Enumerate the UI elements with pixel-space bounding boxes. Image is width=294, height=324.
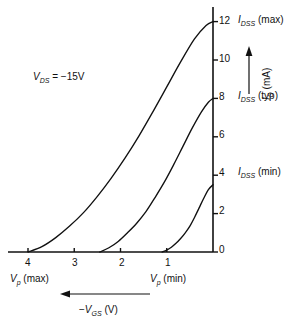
x-tick-label-2: 2	[119, 258, 125, 268]
vds-value: = −15V	[49, 71, 84, 82]
y-tick-label-4: 4	[219, 168, 225, 178]
x-tick-label-3: 3	[72, 258, 78, 268]
x-axis-title-symbol: V	[85, 304, 92, 315]
id-axis-arrow-icon	[246, 46, 253, 94]
vgs-axis-arrow-icon	[60, 291, 150, 298]
curve-group	[28, 22, 213, 252]
vds-symbol: V	[33, 71, 40, 82]
y-axis-title-symbol: I	[261, 97, 272, 100]
y-axis-title-subscript: D	[267, 92, 274, 97]
y-tick-label-0: 0	[219, 245, 225, 255]
y-tick-label-2: 2	[219, 206, 225, 216]
idss-max-text: (max)	[255, 14, 283, 25]
x-axis-title-unit: (V)	[104, 304, 117, 315]
x-axis-title: −VGS (V)	[79, 305, 118, 317]
curve-min	[162, 185, 213, 252]
vp-min-text: (min)	[161, 273, 187, 284]
idss-min-text: (min)	[255, 166, 281, 177]
vds-subscript: DS	[40, 77, 50, 84]
idss-min-subscript: DSS	[241, 172, 255, 179]
x-tick-label-4: 4	[25, 258, 31, 268]
curve-max	[28, 22, 213, 252]
vds-annotation: VDS = −15V	[33, 72, 84, 84]
y-tick-label-12: 12	[219, 16, 230, 26]
vp-min-symbol: V	[150, 273, 157, 284]
vp-max-text: (max)	[21, 273, 49, 284]
y-tick-label-10: 10	[219, 54, 230, 64]
idss-min-label: IDSS (min)	[238, 167, 281, 179]
vp-max-label: Vp (max)	[10, 274, 49, 286]
y-axis-title: ID (mA)	[262, 68, 274, 100]
vp-max-symbol: V	[10, 273, 17, 284]
curve-typ	[100, 98, 213, 252]
y-tick-label-8: 8	[219, 92, 225, 102]
x-axis-title-subscript: GS	[92, 310, 102, 317]
idss-max-subscript: DSS	[241, 20, 255, 27]
vp-min-label: Vp (min)	[150, 274, 186, 286]
y-axis-title-unit: (mA)	[261, 68, 272, 90]
x-tick-label-1: 1	[165, 258, 171, 268]
jfet-transfer-characteristic-figure: 12 10 8 6 4 2 0 4 3 2 1 VDS = −15V Vp (m…	[0, 0, 294, 324]
y-tick-label-6: 6	[219, 130, 225, 140]
idss-typ-subscript: DSS	[241, 96, 255, 103]
idss-max-label: IDSS (max)	[238, 15, 284, 27]
